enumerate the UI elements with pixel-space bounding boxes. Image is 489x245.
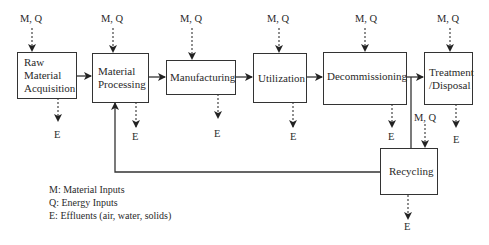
stage-label: Utilization: [258, 72, 305, 85]
stage-label: Raw: [24, 56, 75, 69]
output-label: E: [290, 131, 296, 143]
output-label: E: [214, 128, 220, 140]
output-label: E: [388, 131, 394, 143]
stage-raw-material-acquisition: Raw Material Acquisition: [17, 52, 77, 99]
input-label: M, Q: [267, 13, 289, 25]
stage-label: Decommissioning: [327, 70, 407, 83]
input-label: M, Q: [20, 13, 42, 25]
input-label: M, Q: [180, 13, 202, 25]
stage-label: Material: [98, 65, 146, 78]
stage-label: Material: [24, 69, 75, 82]
input-label: M, Q: [101, 13, 123, 25]
stage-label: Manufacturing: [170, 71, 235, 84]
stage-utilization: Utilization: [253, 53, 307, 103]
stage-label: Treatment: [429, 66, 474, 79]
input-label: M, Q: [437, 13, 459, 25]
stage-recycling: Recycling: [380, 148, 438, 195]
legend-item: M: Material Inputs: [49, 184, 171, 197]
stage-manufacturing: Manufacturing: [166, 60, 236, 95]
output-label: E: [453, 134, 459, 146]
output-label: E: [404, 221, 410, 233]
feedback-arrow: [115, 103, 380, 172]
legend-item: Q: Energy Inputs: [49, 197, 171, 210]
legend: M: Material Inputs Q: Energy Inputs E: E…: [49, 184, 171, 222]
output-label: E: [54, 129, 60, 141]
stage-material-processing: Material Processing: [92, 53, 149, 103]
input-label: M, Q: [355, 13, 377, 25]
stage-label: Processing: [98, 78, 146, 91]
stage-decommissioning: Decommissioning: [323, 52, 407, 105]
stage-label: Recycling: [389, 165, 434, 178]
input-label: M, Q: [414, 112, 436, 124]
stage-treatment-disposal: Treatment /Disposal: [424, 52, 473, 105]
stage-label: Acquisition: [24, 82, 75, 95]
output-label: E: [132, 131, 138, 143]
stage-label: /Disposal: [429, 79, 474, 92]
legend-item: E: Effluents (air, water, solids): [49, 210, 171, 223]
